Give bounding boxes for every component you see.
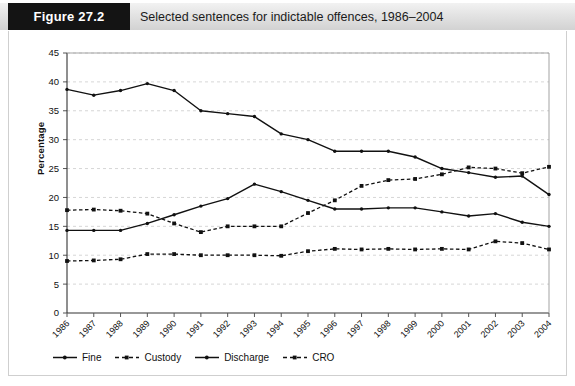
chart-legend: FineCustodyDischargeCRO (52, 352, 334, 363)
svg-text:0: 0 (54, 307, 59, 318)
data-point (172, 89, 175, 92)
legend-marker-icon (194, 353, 220, 362)
data-point (65, 229, 68, 232)
svg-text:45: 45 (48, 47, 59, 58)
data-point (467, 171, 470, 174)
data-point (306, 211, 310, 215)
svg-text:1995: 1995 (291, 318, 312, 339)
data-point (226, 253, 230, 257)
data-point (199, 204, 202, 207)
data-point (279, 254, 283, 258)
legend-label: CRO (312, 352, 334, 363)
data-point (387, 150, 390, 153)
data-point (119, 89, 122, 92)
data-point (146, 222, 149, 225)
svg-text:2000: 2000 (425, 318, 446, 339)
data-point (253, 224, 257, 228)
data-point (92, 93, 95, 96)
data-point (521, 221, 524, 224)
data-point (226, 197, 229, 200)
data-point (467, 166, 471, 170)
data-point (92, 259, 96, 263)
legend-item-discharge[interactable]: Discharge (194, 352, 269, 363)
data-point (547, 193, 550, 196)
data-point (360, 248, 364, 252)
svg-text:1986: 1986 (50, 318, 71, 339)
data-point (145, 252, 149, 256)
data-point (547, 225, 550, 228)
data-point (333, 207, 336, 210)
y-axis: 051015202530354045 (48, 47, 549, 318)
svg-text:1990: 1990 (157, 318, 178, 339)
data-point (119, 229, 122, 232)
data-point (172, 222, 176, 226)
data-point (65, 208, 69, 212)
svg-text:30: 30 (48, 134, 59, 145)
data-point (92, 229, 95, 232)
data-point (253, 115, 256, 118)
data-point (280, 190, 283, 193)
data-point (199, 230, 203, 234)
svg-text:1987: 1987 (77, 318, 98, 339)
svg-text:1994: 1994 (264, 318, 285, 339)
data-point (146, 82, 149, 85)
legend-marker-icon (114, 353, 140, 362)
legend-item-custody[interactable]: Custody (114, 352, 181, 363)
data-point (172, 213, 175, 216)
svg-text:40: 40 (48, 76, 59, 87)
legend-marker-icon (52, 353, 78, 362)
data-point (440, 172, 444, 176)
svg-text:1999: 1999 (398, 318, 419, 339)
data-point (440, 247, 444, 251)
data-point (333, 198, 337, 202)
svg-text:10: 10 (48, 250, 59, 261)
data-point (386, 247, 390, 251)
svg-text:2004: 2004 (532, 318, 553, 339)
data-point (547, 248, 551, 252)
svg-text:1993: 1993 (238, 318, 259, 339)
data-series (65, 82, 551, 263)
data-point (494, 176, 497, 179)
data-point (280, 132, 283, 135)
svg-text:1996: 1996 (318, 318, 339, 339)
data-point (199, 253, 203, 257)
data-point (65, 88, 68, 91)
data-point (494, 212, 497, 215)
svg-text:2001: 2001 (452, 318, 473, 339)
svg-text:25: 25 (48, 163, 59, 174)
svg-text:2002: 2002 (479, 318, 500, 339)
data-point (65, 259, 69, 263)
figure-caption: Selected sentences for indictable offenc… (140, 3, 443, 30)
legend-item-cro[interactable]: CRO (282, 352, 334, 363)
series-line-discharge (67, 184, 549, 230)
data-point (172, 252, 176, 256)
data-point (360, 184, 364, 188)
data-point (92, 208, 96, 212)
data-point (226, 112, 229, 115)
data-point (467, 248, 471, 252)
svg-text:15: 15 (48, 221, 59, 232)
data-point (360, 207, 363, 210)
svg-text:2003: 2003 (505, 318, 526, 339)
data-point (440, 167, 443, 170)
data-point (413, 248, 417, 252)
line-chart-plot: 051015202530354045 198619871988198919901… (9, 31, 568, 376)
data-point (199, 109, 202, 112)
figure-number-tag: Figure 27.2 (8, 3, 130, 30)
svg-text:20: 20 (48, 192, 59, 203)
data-point (494, 167, 498, 171)
data-point (413, 155, 416, 158)
data-point (413, 177, 417, 181)
svg-text:1997: 1997 (345, 318, 366, 339)
data-point (145, 212, 149, 216)
data-point (494, 239, 498, 243)
data-point (413, 206, 416, 209)
x-axis: 1986198719881989199019911992199319941995… (50, 313, 553, 340)
chart-frame: Percentage 051015202530354045 1986198719… (8, 31, 567, 376)
legend-label: Discharge (224, 352, 269, 363)
svg-text:1988: 1988 (104, 318, 125, 339)
legend-item-fine[interactable]: Fine (52, 352, 101, 363)
data-point (520, 241, 524, 245)
svg-text:1992: 1992 (211, 318, 232, 339)
data-point (360, 150, 363, 153)
